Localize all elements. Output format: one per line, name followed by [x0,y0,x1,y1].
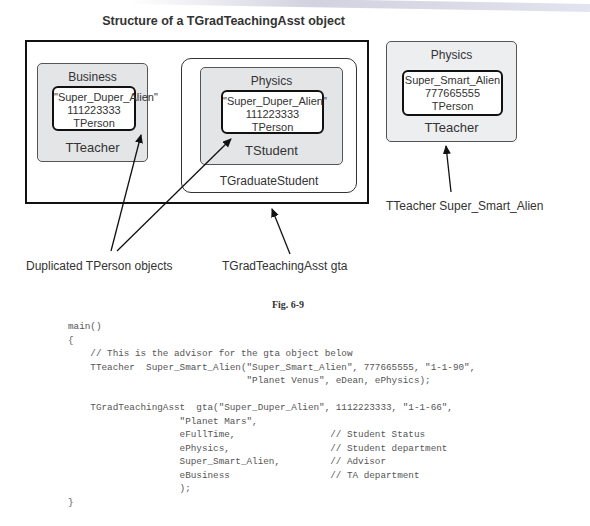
figure-caption: Fig. 6-9 [0,299,576,310]
code-line: "Planet Mars", [68,416,258,427]
advisor-person-box: Super_Smart_Alien 777665555 TPerson [402,70,503,116]
code-line: TGradTeachingAsst gta("Super_Duper_Alien… [68,402,453,413]
code-line: { [68,335,74,346]
graduate-student-class: TGraduateStudent [181,174,357,188]
arrow-to-gta-object-icon [272,209,290,254]
advisor-teacher-box: Physics Super_Smart_Alien 777665555 TPer… [386,41,517,142]
student-part-box: Physics "Super_Duper_Alien" 111223333 TP… [200,67,343,165]
code-line: ePhysics, // Student department [68,443,447,454]
person-ssn: 111223333 [223,108,322,121]
student-department: Physics [201,74,342,88]
code-line: Super_Smart_Alien, // Advisor [68,456,386,467]
code-line: ); [68,483,191,494]
teacher-person-box: "Super_Duper_Alien" 111223333 TPerson [52,86,136,131]
code-line: eFullTime, // Student Status [68,429,425,440]
scan-streak [130,0,590,12]
person-name: "Super_Duper_Alien" [223,95,322,108]
person-class: TPerson [404,100,501,113]
code-listing: main() { // This is the advisor for the … [68,320,475,509]
code-line: main() [68,321,101,332]
advisor-label: TTeacher Super_Smart_Alien [386,199,543,213]
code-line: "Planet Venus", eDean, ePhysics); [68,375,431,386]
advisor-department: Physics [387,48,516,62]
person-class: TPerson [54,117,134,130]
gta-label: TGradTeachingAsst gta [222,259,347,273]
person-ssn: 111223333 [54,104,134,117]
code-line: // This is the advisor for the gta objec… [68,348,353,359]
student-person-box: "Super_Duper_Alien" 111223333 TPerson [221,90,324,134]
person-name: Super_Smart_Alien [404,74,501,87]
code-line: } [68,497,74,508]
duplicated-label: Duplicated TPerson objects [26,259,173,273]
diagram-title: Structure of a TGradTeachingAsst object [0,14,345,28]
person-class: TPerson [223,121,322,134]
teacher-class: TTeacher [38,140,147,155]
code-line: eBusiness // TA department [68,470,419,481]
teacher-department: Business [38,70,147,84]
teacher-part-box: Business "Super_Duper_Alien" 111223333 T… [37,63,148,162]
person-name: "Super_Duper_Alien" [54,91,134,104]
person-ssn: 777665555 [404,87,501,100]
code-line: TTeacher Super_Smart_Alien("Super_Smart_… [68,362,475,373]
advisor-class: TTeacher [387,120,516,135]
student-class: TStudent [201,143,342,158]
arrow-to-advisor-icon [446,146,451,192]
